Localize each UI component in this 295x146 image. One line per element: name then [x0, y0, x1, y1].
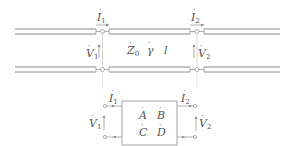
phasor-dot-icon: · [129, 38, 132, 47]
port1-bottom-terminal [101, 68, 105, 72]
phasor-dot-icon: · [200, 41, 203, 50]
phasor-dot-icon: · [88, 41, 91, 50]
port1-top-terminal [101, 30, 105, 34]
phasor-dot-icon: · [183, 86, 186, 95]
current-arrow-icon [182, 136, 185, 139]
port2-top-terminal [195, 30, 199, 34]
box-port2-bottom-terminal [193, 135, 196, 138]
phasor-dot-icon: · [99, 5, 102, 14]
two-port-diagram: I1 · I2 · V1 · V2 · Z0 · γ · l I1 · I2 ·… [0, 0, 295, 146]
voltage-arrow-icon [103, 115, 106, 130]
svg-text:·: · [141, 103, 144, 112]
line-length-label: l [164, 44, 168, 57]
phasor-dot-icon: · [201, 111, 204, 120]
box-port1-top-terminal [103, 104, 106, 107]
top-conductor [15, 29, 280, 34]
characteristic-impedance-label: Z0 [126, 44, 139, 58]
current-arrow-icon [113, 136, 116, 139]
phasor-dot-icon: · [111, 86, 114, 95]
box-port2-top-terminal [193, 104, 196, 107]
phasor-dot-icon: · [148, 38, 151, 47]
phasor-dot-icon: · [193, 5, 196, 14]
two-port-box [122, 101, 177, 145]
svg-text:·: · [141, 120, 144, 129]
bottom-conductor [15, 67, 280, 72]
voltage-arrow-icon [193, 44, 196, 58]
svg-text:·: · [159, 120, 162, 129]
port2-bottom-terminal [195, 68, 199, 72]
svg-text:·: · [159, 103, 162, 112]
box-port1-bottom-terminal [103, 135, 106, 138]
voltage-arrow-icon [195, 116, 198, 131]
phasor-dot-icon: · [91, 111, 94, 120]
